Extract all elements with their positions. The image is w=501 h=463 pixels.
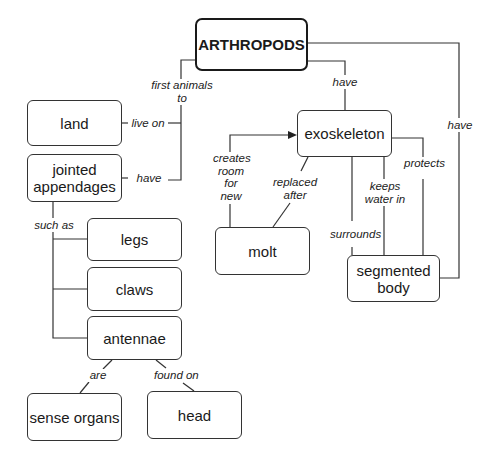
link-label-protects: protects <box>404 157 444 170</box>
node-exoskeleton[interactable]: exoskeleton <box>297 110 392 157</box>
node-sense-organs[interactable]: sense organs <box>27 393 122 441</box>
node-claws[interactable]: claws <box>87 267 182 311</box>
node-label: antennae <box>103 330 166 347</box>
node-label-line2: body <box>377 279 410 296</box>
node-label: sense organs <box>29 409 119 426</box>
node-legs[interactable]: legs <box>87 218 182 261</box>
node-label: exoskeleton <box>304 125 384 142</box>
link-label-line1: creates <box>213 152 249 165</box>
node-label: land <box>60 115 88 132</box>
link-label-have-exoskeleton: have <box>328 76 362 89</box>
link-label-line4: new <box>213 190 249 203</box>
link-label-have-segmented-body: have <box>443 119 477 132</box>
node-label-line1: jointed <box>52 161 96 178</box>
link-label-have-appendages: have <box>132 172 166 185</box>
link-label-first-animals-to: first animals to <box>150 79 214 105</box>
node-label: legs <box>121 231 149 248</box>
link-label-line1: first animals <box>150 79 214 92</box>
link-label-surrounds: surrounds <box>330 228 378 241</box>
node-label-line1: segmented <box>356 262 430 279</box>
link-label-line2: room <box>213 165 249 178</box>
link-label-line3: for <box>213 177 249 190</box>
node-label: molt <box>248 243 276 260</box>
link-label-are: are <box>86 369 110 382</box>
node-jointed-appendages[interactable]: jointed appendages <box>27 154 122 202</box>
node-segmented-body[interactable]: segmented body <box>347 255 440 302</box>
node-label: head <box>178 407 211 424</box>
link-label-line2: after <box>271 189 319 202</box>
node-antennae[interactable]: antennae <box>87 316 182 360</box>
node-arthropods[interactable]: ARTHROPODS <box>195 18 308 71</box>
link-label-creates-room-for-new: creates room for new <box>213 152 249 202</box>
node-head[interactable]: head <box>147 391 242 439</box>
node-label: claws <box>116 281 154 298</box>
link-label-replaced-after: replaced after <box>271 176 319 202</box>
link-label-line2: water in <box>364 193 406 206</box>
node-land[interactable]: land <box>27 100 122 146</box>
link-label-line2: to <box>150 92 214 105</box>
arrowhead-icon <box>288 131 297 139</box>
link-label-line1: keeps <box>364 180 406 193</box>
link-label-found-on: found on <box>154 369 198 382</box>
link-label-such-as: such as <box>33 219 75 232</box>
node-molt[interactable]: molt <box>215 227 310 275</box>
node-label: ARTHROPODS <box>198 36 305 53</box>
link-label-live-on: live on <box>129 117 167 130</box>
link-label-keeps-water-in: keeps water in <box>364 180 406 206</box>
node-label-line2: appendages <box>33 178 116 195</box>
link-label-line1: replaced <box>271 176 319 189</box>
